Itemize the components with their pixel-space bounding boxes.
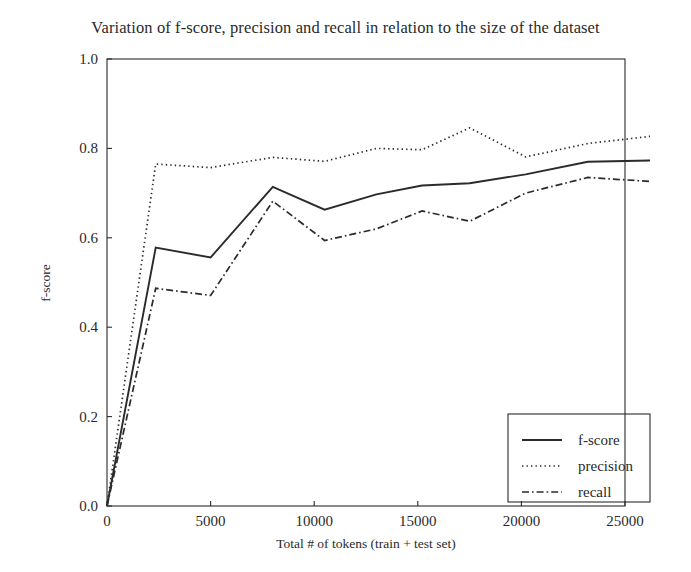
y-axis-label: f-score <box>38 264 53 301</box>
y-tick-label: 0.2 <box>79 409 98 425</box>
y-tick-label: 0.0 <box>79 498 98 514</box>
x-axis-ticks: 0500010000150002000025000 <box>103 501 644 529</box>
series-f-score <box>107 160 650 506</box>
plot-canvas: 0500010000150002000025000 0.00.20.40.60.… <box>0 0 691 572</box>
x-tick-label: 5000 <box>196 513 226 529</box>
data-series-group <box>107 128 650 506</box>
chart-figure: Variation of f-score, precision and reca… <box>0 0 691 572</box>
x-tick-label: 25000 <box>606 513 644 529</box>
legend-label-f-score: f-score <box>578 432 620 448</box>
y-tick-label: 0.8 <box>79 140 98 156</box>
x-axis-label: Total # of tokens (train + test set) <box>276 536 456 551</box>
chart-legend: f-scoreprecisionrecall <box>508 414 650 502</box>
legend-label-recall: recall <box>578 484 611 500</box>
y-tick-label: 0.6 <box>79 230 98 246</box>
x-tick-label: 20000 <box>503 513 541 529</box>
y-tick-label: 0.4 <box>79 319 98 335</box>
series-recall <box>107 177 650 506</box>
x-tick-label: 15000 <box>399 513 437 529</box>
y-tick-label: 1.0 <box>79 51 98 67</box>
x-tick-label: 10000 <box>295 513 333 529</box>
series-precision <box>107 128 650 506</box>
x-tick-label: 0 <box>103 513 111 529</box>
plot-frame <box>107 59 625 506</box>
legend-label-precision: precision <box>578 458 633 474</box>
